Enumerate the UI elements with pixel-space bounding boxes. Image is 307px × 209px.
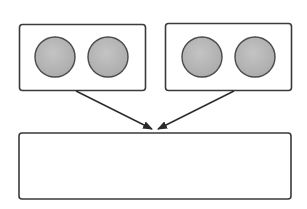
right-group-box <box>166 24 292 91</box>
right-group-circle-2 <box>235 37 275 77</box>
left-group-box <box>20 25 146 91</box>
arrow-right-to-combined <box>158 91 234 129</box>
diagram-canvas <box>0 0 307 209</box>
combined-box <box>19 133 291 199</box>
right-group-circle-1 <box>182 37 222 77</box>
arrow-left-to-combined <box>76 91 152 129</box>
left-group-circle-1 <box>35 37 75 77</box>
left-group-circle-2 <box>88 37 128 77</box>
